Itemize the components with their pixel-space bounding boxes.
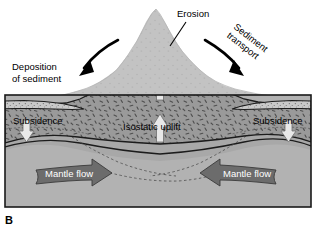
isostasy-cross-section-diagram: Subsidence Subsidence Isostatic uplift M… bbox=[0, 0, 320, 229]
panel-letter: B bbox=[5, 214, 13, 226]
mantle-flow-label-left: Mantle flow bbox=[45, 168, 93, 179]
figure-root: Subsidence Subsidence Isostatic uplift M… bbox=[0, 0, 320, 229]
isostatic-uplift-label: Isostatic uplift bbox=[123, 121, 181, 132]
subsidence-label-right: Subsidence bbox=[253, 115, 303, 126]
deposition-label-line1: Deposition bbox=[12, 61, 57, 72]
mantle-flow-label-right: Mantle flow bbox=[223, 168, 271, 179]
deposition-label-line2: of sediment bbox=[12, 73, 61, 84]
erosion-label: Erosion bbox=[177, 8, 209, 19]
subsidence-label-left: Subsidence bbox=[13, 115, 63, 126]
